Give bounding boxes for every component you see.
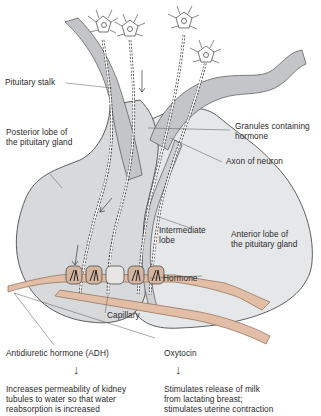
- adh-arrow-icon: ↓: [73, 363, 80, 376]
- anterior-lobe-label: Anterior lobe of the pituitary gland: [231, 230, 297, 250]
- neuron-cell-bodies: [96, 12, 214, 62]
- intermediate-lobe-label: Intermediate lobe: [159, 226, 206, 246]
- adh-effect: Increases permeability of kidney tubules…: [6, 385, 126, 414]
- capillary-label: Capillary: [107, 311, 140, 321]
- oxytocin-label: Oxytocin: [164, 349, 197, 359]
- axon-terminals: [66, 266, 164, 284]
- pituitary-stalk-label: Pituitary stalk: [5, 78, 55, 88]
- adh-label: Antidiuretic hormone (ADH): [6, 349, 109, 359]
- posterior-lobe-label: Posterior lobe of the pituitary gland: [6, 128, 72, 148]
- oxytocin-arrow-icon: ↓: [175, 363, 182, 376]
- hormone-label: Hormone: [163, 274, 197, 284]
- axon-label: Axon of neuron: [226, 157, 283, 167]
- oxytocin-effect: Stimulates release of milk from lactatin…: [164, 385, 273, 414]
- granules-label: Granules containing hormone: [235, 122, 310, 142]
